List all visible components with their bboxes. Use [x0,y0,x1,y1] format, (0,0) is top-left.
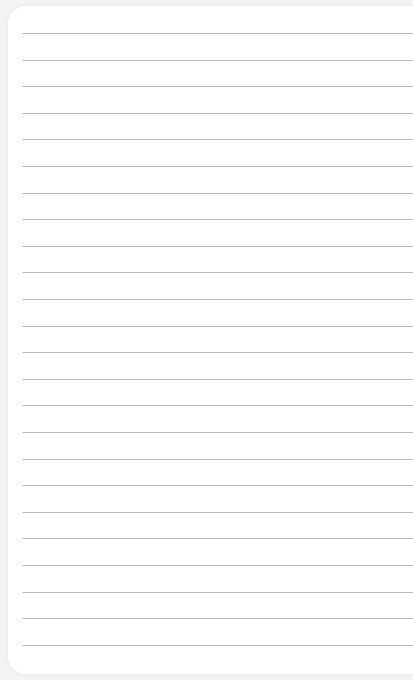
ruled-line [23,459,413,460]
ruled-line [23,326,413,327]
ruled-line [23,618,413,619]
ruled-line [23,60,413,61]
ruled-line [23,299,413,300]
ruled-line [23,379,413,380]
ruled-line [23,246,413,247]
ruled-line [23,166,413,167]
ruled-line [23,33,413,34]
ruled-line [23,432,413,433]
ruled-line [23,405,413,406]
ruled-line [23,219,413,220]
ruled-line [23,485,413,486]
ruled-line [23,592,413,593]
ruled-line [23,86,413,87]
ruled-line [23,193,413,194]
lined-paper-sheet [8,6,413,674]
ruled-line [23,565,413,566]
ruled-line [23,113,413,114]
ruled-line [23,139,413,140]
ruled-line [23,352,413,353]
ruled-line [23,538,413,539]
ruled-line [23,512,413,513]
ruled-line [23,645,413,646]
ruled-line [23,272,413,273]
